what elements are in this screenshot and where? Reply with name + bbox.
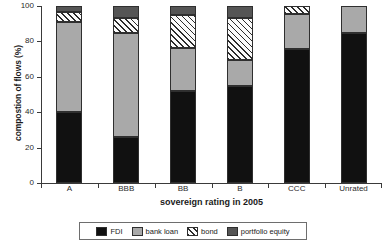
bar-bbb[interactable] xyxy=(113,6,139,183)
legend-swatch-bond xyxy=(187,227,198,236)
bar-segment-FDI[interactable] xyxy=(56,112,82,183)
bar-segment-FDI[interactable] xyxy=(341,33,367,183)
y-axis-tick: 60 xyxy=(37,77,41,78)
plot-area: 020406080100 xyxy=(41,6,382,184)
x-axis-label: BBB xyxy=(96,184,156,193)
y-axis-tick: 80 xyxy=(37,41,41,42)
chart-legend: FDI bank loan bond portfolio equity xyxy=(79,222,307,240)
y-axis-line xyxy=(41,6,42,184)
x-axis-label: A xyxy=(39,184,99,193)
bar-segment-FDI[interactable] xyxy=(113,137,139,183)
bar-segment-bond[interactable] xyxy=(170,15,196,48)
bar-segment-bond[interactable] xyxy=(284,6,310,14)
x-axis-label: CCC xyxy=(267,184,327,193)
legend-item: bank loan xyxy=(132,227,179,236)
y-axis-tick-label: 60 xyxy=(25,72,34,81)
bar-segment-portfolio-equity[interactable] xyxy=(227,6,253,18)
legend-item: portfolio equity xyxy=(227,227,290,236)
bar-segment-bond[interactable] xyxy=(56,12,82,22)
y-axis-title: compostion of flows (%) xyxy=(13,13,23,173)
legend-label: bank loan xyxy=(146,227,179,236)
bar-segment-portfolio-equity[interactable] xyxy=(56,6,82,12)
stacked-bar-chart: compostion of flows (%) 020406080100 sov… xyxy=(0,0,388,247)
y-axis-tick-label: 100 xyxy=(21,1,34,10)
bar-segment-bank-loan[interactable] xyxy=(56,22,82,112)
y-axis-tick-label: 20 xyxy=(25,143,34,152)
bar-bb[interactable] xyxy=(170,6,196,183)
y-axis-tick-label: 80 xyxy=(25,36,34,45)
bar-segment-bond[interactable] xyxy=(227,18,253,60)
bar-segment-FDI[interactable] xyxy=(170,91,196,183)
bar-segment-portfolio-equity[interactable] xyxy=(170,6,196,15)
x-axis-label: BB xyxy=(153,184,213,193)
bar-segment-bank-loan[interactable] xyxy=(170,48,196,91)
legend-label: bond xyxy=(201,227,218,236)
bar-a[interactable] xyxy=(56,6,82,183)
x-axis-title: sovereign rating in 2005 xyxy=(41,197,382,207)
y-axis-tick: 40 xyxy=(37,112,41,113)
legend-label: FDI xyxy=(110,227,122,236)
legend-swatch-fdi xyxy=(96,227,107,236)
y-axis-tick-label: 0 xyxy=(30,178,34,187)
bar-segment-bond[interactable] xyxy=(113,18,139,32)
bar-segment-FDI[interactable] xyxy=(284,49,310,183)
bar-b[interactable] xyxy=(227,6,253,183)
bar-ccc[interactable] xyxy=(284,6,310,183)
x-axis-label: B xyxy=(210,184,270,193)
y-axis-tick: 100 xyxy=(37,6,41,7)
legend-swatch-bank-loan xyxy=(132,227,143,236)
y-axis-tick-label: 40 xyxy=(25,107,34,116)
bar-unrated[interactable] xyxy=(341,6,367,183)
y-axis-tick: 20 xyxy=(37,148,41,149)
bar-segment-FDI[interactable] xyxy=(227,86,253,183)
bar-segment-bank-loan[interactable] xyxy=(284,14,310,49)
x-axis-label: Unrated xyxy=(324,184,384,193)
bar-segment-portfolio-equity[interactable] xyxy=(113,6,139,18)
legend-label: portfolio equity xyxy=(241,227,290,236)
bar-segment-bank-loan[interactable] xyxy=(341,6,367,33)
legend-item: FDI xyxy=(96,227,122,236)
legend-swatch-portfolio-equity xyxy=(227,227,238,236)
bar-segment-bank-loan[interactable] xyxy=(113,33,139,137)
bar-segment-bank-loan[interactable] xyxy=(227,60,253,86)
legend-item: bond xyxy=(187,227,218,236)
